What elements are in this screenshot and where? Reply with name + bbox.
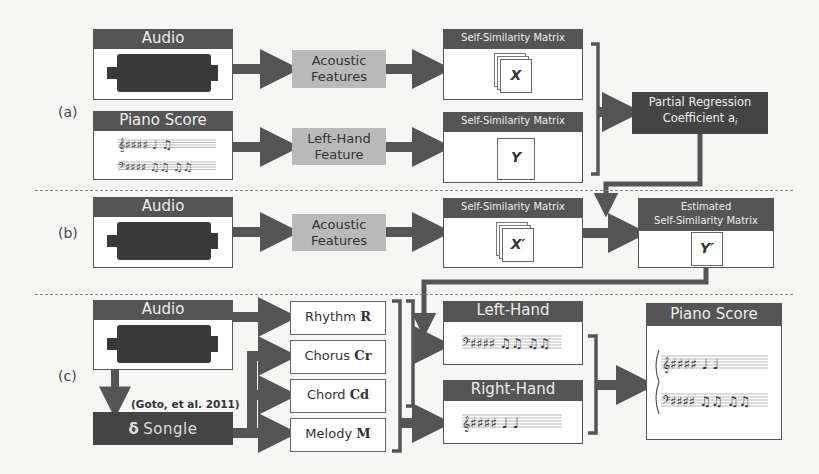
acoustic-features-a: Acoustic Features bbox=[292, 50, 386, 88]
partial-regression-subscript: i bbox=[735, 119, 737, 128]
audio-waveform-box-b bbox=[93, 216, 233, 268]
panel-label-c: (c) bbox=[58, 368, 77, 384]
songle-logo-icon: δ bbox=[129, 421, 140, 437]
svg-text:𝄞♯♯♯♯ ♩ ♫: 𝄞♯♯♯♯ ♩ ♫ bbox=[118, 138, 172, 152]
waveform-icon bbox=[117, 325, 211, 363]
svg-text:𝄞♯♯♯♯ ♩ ♩: 𝄞♯♯♯♯ ♩ ♩ bbox=[462, 415, 519, 432]
separator-a-b bbox=[35, 190, 793, 191]
piano-score-image-c: 𝄞♯♯♯♯ ♩ ♩ 𝄢♯♯♯♯ ♫♫ ♫♫ bbox=[646, 325, 782, 440]
acoustic-features-line2: Features bbox=[311, 69, 367, 85]
feature-symbol: M bbox=[356, 426, 370, 441]
piano-score-image-a: 𝄞♯♯♯♯ ♩ ♫ 𝄢♯♯♯♯ ♫♫ ♫♫ bbox=[93, 130, 233, 180]
waveform-tail-left bbox=[107, 67, 119, 79]
estimated-ssm-header-line1: Estimated bbox=[638, 200, 774, 214]
feature-rhythm: Rhythm R bbox=[290, 301, 386, 335]
audio-header-b: Audio bbox=[93, 197, 233, 216]
audio-waveform-box-c bbox=[93, 319, 233, 370]
feature-chord: Chord Cd bbox=[290, 379, 386, 413]
partial-regression-coefficient: Partial Regression Coefficient ai bbox=[632, 92, 768, 134]
ssm-y-box-a: Y bbox=[443, 131, 583, 183]
feature-name: Rhythm bbox=[305, 309, 356, 324]
feature-symbol: Cd bbox=[350, 387, 369, 402]
matrix-x-icon: X bbox=[500, 59, 532, 93]
ssm-x-prime-header-b: Self-Similarity Matrix bbox=[443, 198, 583, 217]
waveform-tail-right bbox=[208, 65, 218, 81]
bass-clef-score-icon: 𝄢♯♯♯♯ ♫♫ ♫♫ bbox=[462, 328, 572, 358]
right-hand-score-box: 𝄞♯♯♯♯ ♩ ♩ bbox=[443, 400, 583, 444]
feature-symbol: Cr bbox=[354, 348, 371, 363]
separator-b-c bbox=[35, 294, 793, 295]
partial-regression-line1: Partial Regression bbox=[649, 94, 752, 110]
songle-logo-text: Songle bbox=[143, 421, 197, 437]
left-hand-header-c: Left-Hand bbox=[443, 301, 583, 321]
svg-text:𝄢♯♯♯♯ ♫♫ ♫♫: 𝄢♯♯♯♯ ♫♫ ♫♫ bbox=[118, 161, 193, 174]
partial-regression-text: Coefficient a bbox=[663, 111, 735, 125]
acoustic-features-line2: Features bbox=[311, 233, 367, 249]
ssm-x-box-a: X bbox=[443, 48, 583, 100]
left-hand-feature-a: Left-Hand Feature bbox=[292, 128, 386, 165]
ssm-x-prime-box-b: X′ bbox=[443, 217, 583, 268]
waveform-tail-right bbox=[208, 336, 218, 352]
matrix-y-prime-icon: Y′ bbox=[691, 232, 723, 266]
audio-waveform-box-a bbox=[93, 48, 233, 100]
songle-block: δ Songle bbox=[93, 412, 233, 445]
waveform-icon bbox=[117, 222, 211, 260]
matrix-x-prime-icon: X′ bbox=[502, 228, 534, 262]
svg-text:𝄞♯♯♯♯ ♩ ♩: 𝄞♯♯♯♯ ♩ ♩ bbox=[662, 356, 719, 373]
matrix-y-icon: Y bbox=[497, 138, 535, 180]
ssm-x-header-a: Self-Similarity Matrix bbox=[443, 29, 583, 48]
left-hand-feature-line1: Left-Hand bbox=[307, 131, 370, 147]
feature-chorus: Chorus Cr bbox=[290, 340, 386, 374]
waveform-tail-left bbox=[107, 235, 119, 247]
partial-regression-line2: Coefficient ai bbox=[663, 110, 738, 131]
panel-label-b: (b) bbox=[58, 225, 78, 241]
estimated-ssm-box-b: Y′ bbox=[638, 230, 774, 268]
piano-score-header-a: Piano Score bbox=[93, 111, 233, 130]
feature-name: Chord bbox=[307, 387, 346, 402]
sheet-music-icon: 𝄞♯♯♯♯ ♩ ♫ 𝄢♯♯♯♯ ♫♫ ♫♫ bbox=[116, 134, 226, 176]
waveform-tail-right bbox=[208, 233, 218, 249]
svg-text:𝄢♯♯♯♯ ♫♫ ♫♫: 𝄢♯♯♯♯ ♫♫ ♫♫ bbox=[462, 336, 550, 351]
feature-symbol: R bbox=[360, 309, 371, 324]
feature-melody: Melody M bbox=[290, 418, 386, 452]
grand-staff-score-icon: 𝄞♯♯♯♯ ♩ ♩ 𝄢♯♯♯♯ ♫♫ ♫♫ bbox=[653, 346, 773, 426]
audio-header-a: Audio bbox=[93, 29, 233, 48]
acoustic-features-line1: Acoustic bbox=[312, 53, 367, 69]
ssm-y-header-a: Self-Similarity Matrix bbox=[443, 112, 583, 131]
acoustic-features-b: Acoustic Features bbox=[292, 214, 386, 251]
svg-text:𝄢♯♯♯♯ ♫♫ ♫♫: 𝄢♯♯♯♯ ♫♫ ♫♫ bbox=[662, 394, 750, 409]
left-hand-score-box: 𝄢♯♯♯♯ ♫♫ ♫♫ bbox=[443, 321, 583, 365]
piano-score-header-c: Piano Score bbox=[646, 303, 782, 325]
feature-name: Melody bbox=[305, 426, 352, 441]
waveform-icon bbox=[117, 54, 211, 92]
estimated-ssm-header-b: Estimated Self-Similarity Matrix bbox=[638, 198, 774, 230]
feature-name: Chorus bbox=[305, 348, 351, 363]
treble-clef-score-icon: 𝄞♯♯♯♯ ♩ ♩ bbox=[462, 407, 572, 437]
audio-header-c: Audio bbox=[93, 300, 233, 319]
estimated-ssm-header-line2: Self-Similarity Matrix bbox=[638, 214, 774, 228]
acoustic-features-line1: Acoustic bbox=[312, 217, 367, 233]
waveform-tail-left bbox=[107, 338, 119, 350]
panel-label-a: (a) bbox=[58, 104, 78, 120]
songle-reference: (Goto, et al. 2011) bbox=[131, 398, 240, 410]
right-hand-header-c: Right-Hand bbox=[443, 380, 583, 400]
left-hand-feature-line2: Feature bbox=[314, 147, 363, 163]
